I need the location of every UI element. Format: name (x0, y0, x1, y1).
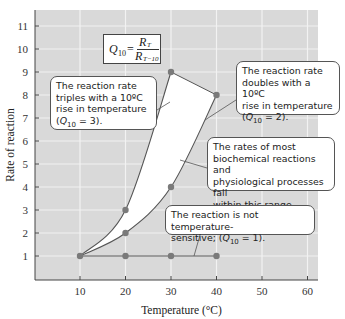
callout-q10-3: The reaction rate triples with a 10ºC ri… (50, 76, 157, 130)
callout-line: biochemical reactions and (213, 153, 329, 176)
formula-numerator: R (139, 35, 146, 50)
y-tick-label: 3 (23, 204, 29, 216)
callout-line: sensitive; (Q10 = 1). (171, 232, 309, 248)
data-point (168, 253, 174, 259)
x-tick-label: 10 (75, 285, 87, 297)
data-point (213, 92, 219, 98)
x-axis-title: Temperature (°C) (141, 304, 222, 317)
data-point (122, 230, 128, 236)
callout-line: rise in temperature (56, 103, 151, 115)
formula-q: Q (109, 42, 118, 57)
formula-numerator-sub: T (147, 41, 151, 49)
callout-q10-1: The reaction is not temperature- sensiti… (165, 205, 315, 235)
data-point (213, 253, 219, 259)
callout-line: doubles with a 10ºC (242, 77, 334, 100)
formula-denominator-sub: T−10 (143, 55, 159, 63)
q10-formula-box: Q10 = RT RT−10 (103, 34, 161, 64)
callout-q10-2: The reaction rate doubles with a 10ºC ri… (236, 61, 340, 115)
y-tick-label: 4 (23, 181, 29, 193)
callout-line: triples with a 10ºC (56, 92, 151, 104)
y-tick-label: 1 (23, 250, 29, 262)
callout-line: The reaction rate (242, 65, 334, 77)
formula-q-sub: 10 (118, 49, 126, 58)
x-tick-label: 30 (166, 285, 178, 297)
x-tick-label: 50 (257, 285, 269, 297)
y-tick-label: 5 (23, 158, 29, 170)
x-tick-label: 40 (211, 285, 223, 297)
formula-denominator: R (135, 49, 142, 64)
callout-line: (Q10 = 2). (242, 111, 334, 127)
x-tick-label: 20 (120, 285, 132, 297)
formula-equals: = (127, 42, 134, 57)
y-tick-label: 7 (23, 112, 29, 124)
y-tick-label: 8 (23, 89, 29, 101)
data-point (168, 184, 174, 190)
y-tick-label: 11 (17, 20, 28, 32)
y-tick-label: 2 (23, 227, 29, 239)
data-point (77, 253, 83, 259)
callout-line: The reaction is not temperature- (171, 209, 309, 232)
y-axis-title: Rate of reaction (4, 108, 16, 182)
y-tick-label: 10 (17, 43, 29, 55)
x-tick-label: 60 (302, 285, 314, 297)
data-point (168, 69, 174, 75)
callout-line: The reaction rate (56, 80, 151, 92)
y-tick-label: 9 (23, 66, 29, 78)
y-tick-label: 6 (23, 135, 29, 147)
callout-range: The rates of most biochemical reactions … (207, 137, 335, 191)
data-point (122, 253, 128, 259)
callout-line: (Q10 = 3). (56, 115, 151, 131)
callout-line: The rates of most (213, 141, 329, 153)
callout-line: physiological processes fall (213, 176, 329, 199)
data-point (122, 207, 128, 213)
callout-line: rise in temperature (242, 100, 334, 112)
